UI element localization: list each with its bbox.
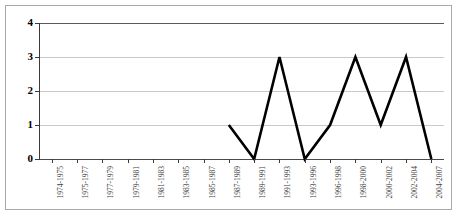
x-tick-1989-1991: [254, 159, 255, 163]
x-tick-1996-1998: [330, 159, 331, 163]
y-axis-label-3: 3: [9, 51, 33, 62]
x-tick-1987-1989: [229, 159, 230, 163]
chart-frame: 01234 1974-19751975-19771977-19791979-19…: [5, 5, 452, 210]
x-axis-label-2000-2002: 2000-2002: [385, 166, 394, 199]
x-tick-1974-1975: [52, 159, 53, 163]
x-axis-label-1979-1981: 1979-1981: [132, 166, 141, 199]
y-tick-1: [35, 125, 39, 126]
x-axis-label-1975-1977: 1975-1977: [81, 166, 90, 199]
x-axis-label-1974-1975: 1974-1975: [56, 166, 65, 199]
x-axis-label-1993-1996: 1993-1996: [309, 166, 318, 199]
y-axis-label-4: 4: [9, 17, 33, 28]
x-tick-2004-2007: [431, 159, 432, 163]
x-axis-label-1989-1991: 1989-1991: [258, 166, 267, 199]
x-axis-label-1981-1983: 1981-1983: [157, 166, 166, 199]
x-axis-label-1977-1979: 1977-1979: [106, 166, 115, 199]
x-tick-2002-2004: [406, 159, 407, 163]
x-tick-2000-2002: [381, 159, 382, 163]
y-axis: [39, 23, 40, 160]
x-axis-label-1998-2000: 1998-2000: [359, 166, 368, 199]
x-tick-1975-1977: [77, 159, 78, 163]
y-axis-label-2: 2: [9, 85, 33, 96]
x-axis-label-1985-1987: 1985-1987: [208, 166, 217, 199]
y-axis-label-0: 0: [9, 153, 33, 164]
y-tick-2: [35, 91, 39, 92]
x-tick-1998-2000: [355, 159, 356, 163]
x-axis-label-1983-1985: 1983-1985: [182, 166, 191, 199]
x-tick-1977-1979: [102, 159, 103, 163]
y-tick-3: [35, 57, 39, 58]
x-tick-1993-1996: [305, 159, 306, 163]
x-axis-label-2004-2007: 2004-2007: [435, 166, 444, 199]
x-tick-1979-1981: [128, 159, 129, 163]
y-axis-label-1: 1: [9, 119, 33, 130]
data-series-line: [39, 23, 444, 159]
y-tick-0: [35, 159, 39, 160]
x-axis-label-1987-1989: 1987-1989: [233, 166, 242, 199]
x-tick-1983-1985: [178, 159, 179, 163]
x-tick-1985-1987: [204, 159, 205, 163]
x-axis-label-1991-1993: 1991-1993: [283, 166, 292, 199]
x-tick-1991-1993: [279, 159, 280, 163]
plot-area: [39, 23, 444, 159]
y-tick-4: [35, 23, 39, 24]
axis-baseline: [39, 159, 444, 160]
x-axis-label-2002-2004: 2002-2004: [410, 166, 419, 199]
x-tick-1981-1983: [153, 159, 154, 163]
x-axis-label-1996-1998: 1996-1998: [334, 166, 343, 199]
